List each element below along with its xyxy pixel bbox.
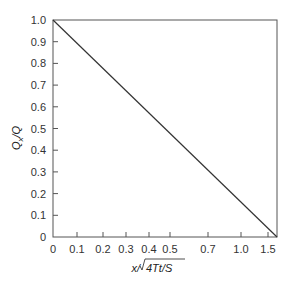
y-tick-label: 0.5 xyxy=(31,123,46,135)
y-axis xyxy=(53,42,58,216)
y-tick-label: 0.4 xyxy=(31,144,46,156)
y-tick-label: 0.1 xyxy=(31,209,46,221)
x-tick-label: 0.5 xyxy=(162,243,177,255)
data-line xyxy=(53,20,277,237)
x-tick-label: 0.1 xyxy=(69,243,84,255)
x-tick-label: 0.2 xyxy=(95,243,110,255)
y-tick-label: 1.0 xyxy=(31,14,46,26)
y-tick-label: 0.8 xyxy=(31,57,46,69)
svg-text:Qx/Q: Qx/Q xyxy=(10,125,25,150)
svg-text:4Tt/S: 4Tt/S xyxy=(146,262,173,274)
x-tick-label: 0 xyxy=(50,243,56,255)
x-tick-label: 0.4 xyxy=(141,243,156,255)
svg-text:x/: x/ xyxy=(130,262,141,274)
y-tick-label: 0.2 xyxy=(31,188,46,200)
x-tick-label: 0.3 xyxy=(118,243,133,255)
y-tick-label: 0.7 xyxy=(31,79,46,91)
y-axis-label: Qx/Q xyxy=(10,125,25,150)
x-axis-label: x/ 4Tt/S xyxy=(130,259,185,274)
x-axis xyxy=(77,232,268,237)
y-tick-label: 0.3 xyxy=(31,166,46,178)
y-tick-label: 0.9 xyxy=(31,36,46,48)
y-tick-label: 0 xyxy=(40,231,46,243)
x-tick-label: 0.7 xyxy=(200,243,215,255)
chart: 1.0 0.9 0.8 0.7 0.6 0.5 0.4 0.3 0.2 0.1 … xyxy=(0,0,291,288)
x-tick-label: 1.5 xyxy=(260,243,275,255)
x-tick-label: 1.0 xyxy=(233,243,248,255)
y-tick-label: 0.6 xyxy=(31,101,46,113)
